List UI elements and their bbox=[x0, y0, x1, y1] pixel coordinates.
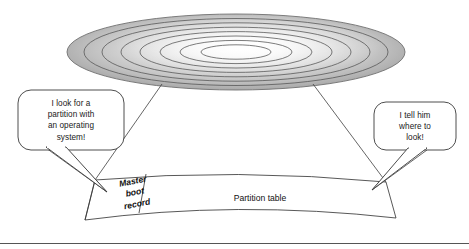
callout-bubble-right[interactable] bbox=[372, 102, 456, 190]
callout-bubble-left[interactable] bbox=[18, 90, 124, 192]
right-bubble-tail-fill bbox=[372, 148, 427, 190]
platter-highlight bbox=[67, 14, 405, 90]
partition-table-label: Partition table bbox=[200, 193, 320, 203]
right-bubble-body bbox=[374, 102, 456, 150]
projection-lines bbox=[95, 84, 386, 182]
figure-canvas: I look for a partition with an operating… bbox=[0, 0, 469, 249]
partition-diagram-svg bbox=[0, 0, 469, 249]
hard-disk-platter bbox=[67, 14, 405, 90]
left-bubble-body bbox=[18, 90, 124, 150]
left-bubble-tail-fill bbox=[46, 147, 107, 192]
